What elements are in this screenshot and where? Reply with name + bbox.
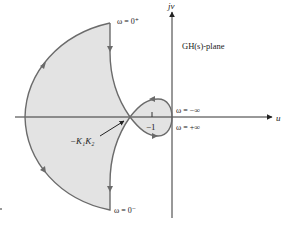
- gain-point-label: −K₁K₂: [70, 136, 94, 146]
- omega-minus-inf-label: ω = −∞: [176, 106, 200, 115]
- plane-label: GH(s)-plane: [182, 41, 225, 51]
- omega-zero-minus-label: ω = 0⁻: [114, 206, 136, 215]
- jv-axis-label: jv: [167, 1, 175, 11]
- minus-one-label: −1: [146, 122, 156, 132]
- nyquist-diagram: u jv −1 −K₁K₂ ω = 0⁺ ω = 0⁻ ω = −∞ ω = +…: [0, 0, 292, 231]
- omega-zero-plus-label: ω = 0⁺: [117, 17, 139, 26]
- stray-mark: [0, 208, 2, 210]
- u-axis-label: u: [276, 113, 281, 123]
- omega-plus-inf-label: ω = +∞: [176, 123, 200, 132]
